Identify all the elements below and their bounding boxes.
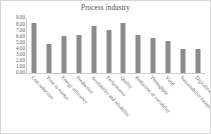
y-axis-tick-label: 9.00 (3, 15, 25, 20)
x-axis-label-slot: Sustainability footprint (175, 75, 190, 133)
bar[interactable] (151, 38, 156, 73)
x-axis-label-slot: Reduction of variability (131, 75, 146, 133)
bar-slot (161, 18, 176, 73)
bar-slot (57, 18, 72, 73)
bar[interactable] (180, 49, 185, 73)
x-axis-label-slot: Performance (101, 75, 116, 133)
chart-container: Process industry 9.008.007.006.005.004.0… (0, 0, 211, 134)
x-axis-tick-label: Digitalization (193, 75, 211, 99)
x-axis-label-slot: Cost reduction (27, 75, 42, 133)
bar[interactable] (76, 35, 81, 74)
x-axis-label-slot: Time to market (42, 75, 57, 133)
bar-slot (42, 18, 57, 73)
bar[interactable] (195, 49, 200, 73)
x-axis-label-slot: Throughput (146, 75, 161, 133)
x-axis: Cost reductionTime to marketEnergy effic… (27, 75, 205, 133)
plot-area (27, 18, 205, 73)
bar-slot (131, 18, 146, 73)
y-axis-tick-label: 8.00 (3, 22, 25, 27)
bar[interactable] (165, 41, 170, 73)
bar[interactable] (62, 36, 67, 73)
bar-slot (101, 18, 116, 73)
x-axis-label-slot: Yield (161, 75, 176, 133)
chart-title: Process industry (1, 4, 210, 12)
x-axis-tick-label: Yield (164, 75, 176, 87)
bar[interactable] (32, 23, 37, 73)
bar-slot (116, 18, 131, 73)
bar-slot (27, 18, 42, 73)
bar-slot (72, 18, 87, 73)
bar[interactable] (91, 26, 96, 73)
bar[interactable] (121, 23, 126, 73)
bar-slot (86, 18, 101, 73)
x-axis-line (26, 73, 205, 74)
bar-slot (146, 18, 161, 73)
y-axis-tick-label: 0.00 (3, 70, 25, 75)
x-axis-label-slot: Energy efficiency (57, 75, 72, 133)
bar[interactable] (47, 44, 52, 73)
bar-slot (175, 18, 190, 73)
bar-slot (190, 18, 205, 73)
y-axis: 9.008.007.006.005.004.003.002.001.000.00 (3, 15, 25, 76)
x-axis-label-slot: Quality (116, 75, 131, 133)
bar[interactable] (136, 35, 141, 73)
x-axis-label-slot: Availability and reliability (86, 75, 101, 133)
x-axis-label-slot: Digitalization (190, 75, 205, 133)
bar[interactable] (106, 30, 111, 73)
x-axis-label-slot: Production (72, 75, 87, 133)
